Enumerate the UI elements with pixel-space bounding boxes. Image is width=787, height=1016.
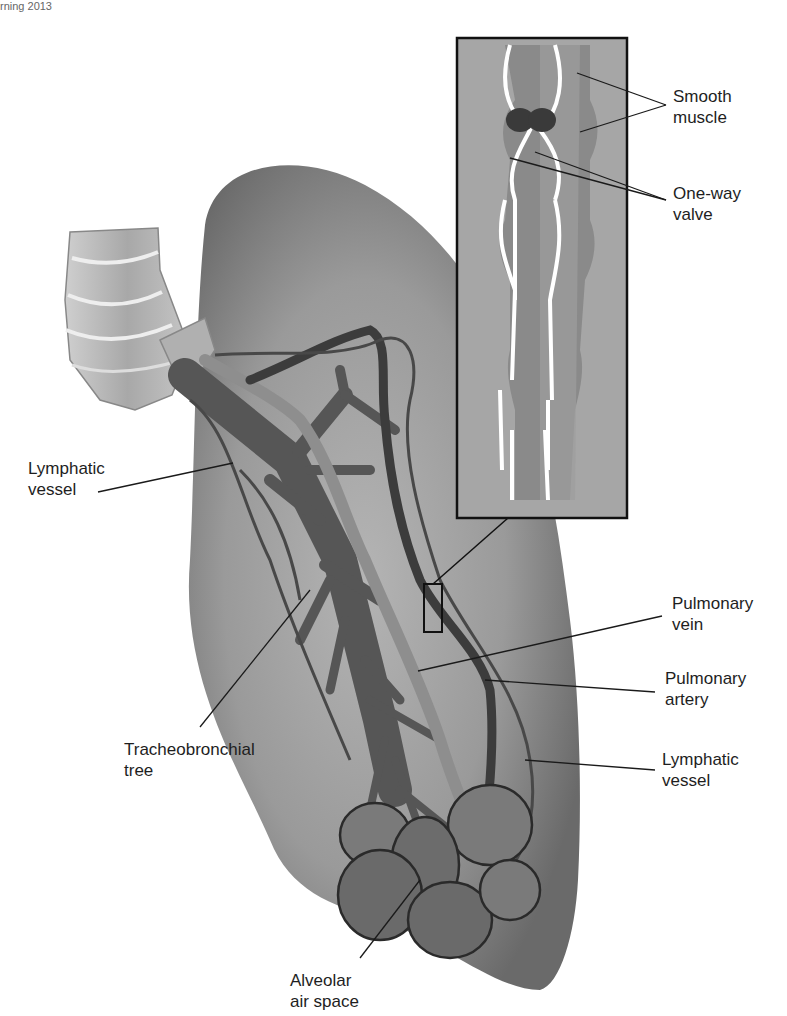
lung-illustration — [0, 0, 787, 1016]
label-pulmonary-artery: Pulmonary artery — [665, 668, 746, 710]
label-tracheobronchial-tree: Tracheobronchial tree — [124, 739, 255, 781]
label-lymphatic-vessel-right: Lymphatic vessel — [662, 749, 739, 791]
label-one-way-valve: One-way valve — [673, 183, 741, 225]
label-smooth-muscle: Smooth muscle — [673, 86, 732, 128]
label-lymphatic-vessel-left: Lymphatic vessel — [28, 458, 105, 500]
label-pulmonary-vein: Pulmonary vein — [672, 593, 753, 635]
inset-panel — [457, 38, 627, 518]
label-alveolar-air-space: Alveolar air space — [290, 970, 359, 1012]
